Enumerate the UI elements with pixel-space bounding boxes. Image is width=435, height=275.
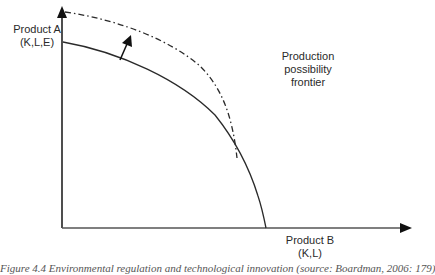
x-axis-label-line2: (K,L) bbox=[275, 247, 345, 260]
frontier-label-line3: frontier bbox=[268, 76, 348, 89]
original-frontier-curve bbox=[63, 42, 266, 228]
frontier-label: Production possibility frontier bbox=[268, 50, 348, 89]
x-axis-label: Product B (K,L) bbox=[275, 234, 345, 260]
frontier-label-line2: possibility bbox=[268, 63, 348, 76]
figure-caption: Figure 4.4 Environmental regulation and … bbox=[0, 262, 423, 275]
shift-arrow bbox=[120, 44, 127, 60]
y-axis-label-line1: Product A bbox=[8, 23, 66, 36]
y-axis-label-line2: (K,L,E) bbox=[8, 36, 66, 49]
frontier-label-line1: Production bbox=[268, 50, 348, 63]
shifted-frontier-curve bbox=[65, 12, 237, 158]
x-axis-arrowhead-icon bbox=[400, 223, 412, 233]
x-axis-label-line1: Product B bbox=[275, 234, 345, 247]
y-axis-label: Product A (K,L,E) bbox=[8, 23, 66, 49]
